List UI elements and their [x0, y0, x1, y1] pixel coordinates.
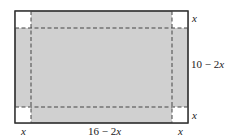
label-bottom-right-width-cut: x	[177, 125, 183, 137]
box-net-diagram: x 10 − 2x x x 16 − 2x x	[0, 0, 233, 140]
corner-cut-bottom-right	[172, 107, 187, 122]
label-top-right-cut: x	[191, 12, 197, 24]
corner-cut-top-left	[16, 12, 31, 28]
label-bottom-width: 16 − 2x	[88, 125, 121, 137]
corner-cut-bottom-left	[16, 107, 31, 122]
label-bottom-left-cut: x	[20, 125, 26, 137]
label-right-height: 10 − 2x	[191, 58, 224, 70]
label-bottom-right-cut: x	[191, 109, 197, 121]
corner-cut-top-right	[172, 12, 187, 28]
